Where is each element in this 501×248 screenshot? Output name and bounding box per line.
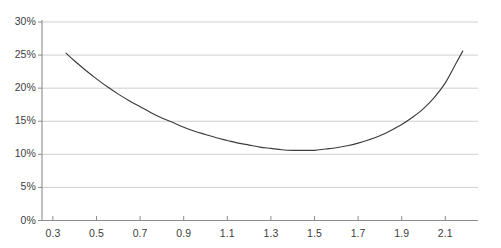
x-axis-tick-label: 2.1 [425,228,465,239]
y-tick-marks-group [38,22,42,221]
x-axis-tick-label: 1.7 [338,228,378,239]
x-axis-tick-label: 0.7 [120,228,160,239]
data-series-curve [66,51,463,150]
x-axis-tick-label: 0.9 [164,228,204,239]
y-axis-tick-label: 0% [0,215,36,226]
x-axis-tick-label: 1.1 [207,228,247,239]
x-axis-tick-label: 1.3 [251,228,291,239]
y-axis-tick-label: 5% [0,181,36,192]
chart-plot-area [0,0,501,248]
y-axis-tick-label: 25% [0,49,36,60]
chart-container: 0%5%10%15%20%25%30% 0.30.50.70.91.11.31.… [0,0,501,248]
y-axis-tick-label: 20% [0,82,36,93]
y-axis-tick-label: 10% [0,148,36,159]
y-axis-tick-label: 15% [0,115,36,126]
x-axis-tick-label: 0.5 [77,228,117,239]
gridlines-group [42,22,478,221]
y-axis-tick-label: 30% [0,16,36,27]
x-axis-tick-label: 1.5 [295,228,335,239]
x-axis-tick-label: 1.9 [382,228,422,239]
x-tick-marks-group [53,216,445,221]
x-axis-tick-label: 0.3 [33,228,73,239]
